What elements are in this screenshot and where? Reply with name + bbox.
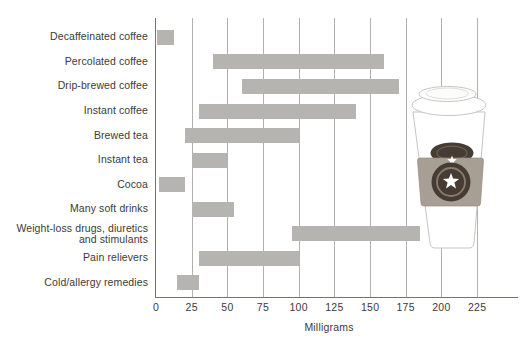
category-label: Decaffeinated coffee (0, 32, 148, 44)
x-axis-title: Milligrams (268, 321, 390, 333)
x-tick-label-225: 225 (457, 301, 497, 313)
x-axis-line (155, 297, 518, 299)
category-label: Weight-loss drugs, diuretics and stimula… (0, 222, 148, 245)
x-tick-label-175: 175 (386, 301, 426, 313)
x-tick-label-125: 125 (314, 301, 354, 313)
range-bar (213, 54, 384, 69)
gridline-175 (406, 18, 407, 297)
x-tick-label-200: 200 (421, 301, 461, 313)
range-bar (159, 177, 185, 192)
category-label: Many soft drinks (0, 203, 148, 215)
range-bar (192, 153, 228, 168)
category-label: Instant tea (0, 154, 148, 166)
category-label: Cocoa (0, 179, 148, 191)
category-label: Instant coffee (0, 105, 148, 117)
range-bar (199, 251, 299, 266)
x-tick-label-75: 75 (243, 301, 283, 313)
caffeine-range-chart: 0255075100125150175200225Decaffeinated c… (0, 0, 525, 348)
range-bar (242, 79, 399, 94)
category-label: Pain relievers (0, 253, 148, 265)
x-tick-label-25: 25 (172, 301, 212, 313)
y-axis-line (155, 18, 156, 297)
category-label: Percolated coffee (0, 56, 148, 68)
x-tick-label-0: 0 (136, 301, 176, 313)
range-bar (292, 226, 420, 241)
cup-lid-opening (427, 88, 469, 99)
range-bar (157, 30, 174, 45)
category-label: Cold/allergy remedies (0, 277, 148, 289)
coffee-cup-illustration (408, 84, 490, 252)
range-bar (185, 128, 299, 143)
category-label: Brewed tea (0, 130, 148, 142)
x-tick-label-50: 50 (207, 301, 247, 313)
x-tick-label-100: 100 (279, 301, 319, 313)
range-bar (192, 202, 235, 217)
x-tick-label-150: 150 (350, 301, 390, 313)
range-bar (199, 104, 356, 119)
category-label: Drip-brewed coffee (0, 81, 148, 93)
sleeve-logo (432, 163, 471, 202)
range-bar (177, 275, 198, 290)
